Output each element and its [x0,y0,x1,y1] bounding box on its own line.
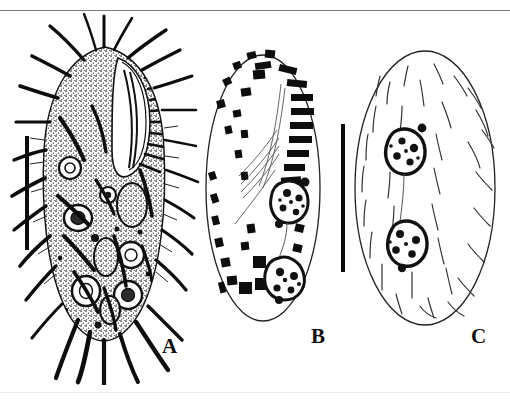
panel-b: B [195,10,340,385]
figure-bottom-rule [0,392,510,393]
panel-c-label: C [471,326,486,347]
panel-c-outline [355,51,495,325]
figure-plate: A [0,0,510,402]
panel-c: C [350,10,510,385]
scale-bar-left [25,136,29,250]
panel-b-label: B [311,326,325,347]
panel-a: A [0,10,200,385]
panel-a-drawing [0,10,200,385]
scale-bar-right [341,124,345,272]
panel-a-label: A [162,336,177,357]
